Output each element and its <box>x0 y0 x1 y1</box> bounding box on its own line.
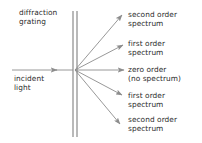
label-incident-light: incident light <box>14 74 44 92</box>
ray-second-order-down <box>75 70 120 124</box>
label-second-order-spectrum-bottom: second order spectrum <box>128 115 177 133</box>
ray-first-order-down <box>75 70 122 95</box>
ray-first-order-up <box>75 45 123 70</box>
label-first-order-spectrum-bottom: first order spectrum <box>128 91 165 109</box>
label-diffraction-grating: diffraction grating <box>19 8 57 26</box>
label-second-order-spectrum-top: second order spectrum <box>128 10 177 28</box>
diffraction-grating-lines <box>73 11 77 137</box>
label-first-order-spectrum-top: first order spectrum <box>128 39 165 57</box>
diffraction-grating-diagram: diffraction grating incident light secon… <box>0 0 202 143</box>
label-zero-order: zero order (no spectrum) <box>128 65 181 83</box>
ray-second-order-up <box>75 15 122 70</box>
